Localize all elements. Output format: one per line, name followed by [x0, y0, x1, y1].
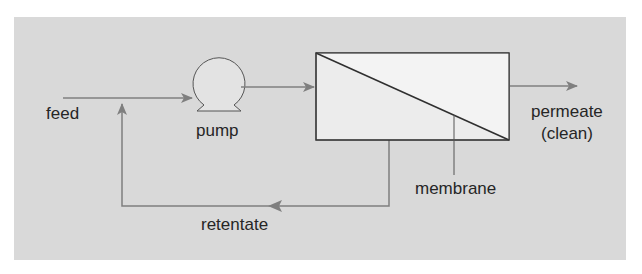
- retentate-label: retentate: [201, 216, 268, 233]
- pump-label: pump: [196, 122, 239, 139]
- permeate-label-line1: permeate: [531, 103, 603, 120]
- permeate-label-line2: (clean): [541, 125, 593, 142]
- membrane-label: membrane: [415, 180, 496, 197]
- pump-icon: [193, 58, 245, 111]
- feed-label: feed: [46, 105, 79, 122]
- membrane-module-icon: [316, 53, 509, 140]
